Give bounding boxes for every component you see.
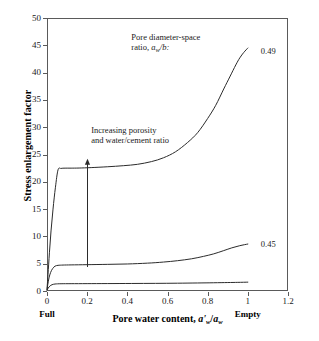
plot-curves — [0, 0, 319, 341]
chart-figure: Stress enlargement factor 05101520253035… — [0, 0, 319, 341]
series-curve-049 — [47, 48, 248, 289]
increasing-porosity-arrow-head — [85, 159, 90, 165]
series-curve-unlabeled — [47, 282, 248, 290]
